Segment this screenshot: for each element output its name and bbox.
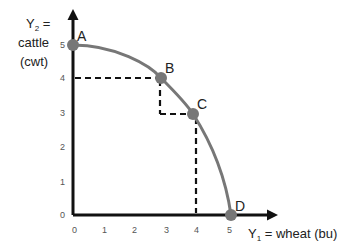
y-tick-0: 0 [60,210,65,220]
x-axis-arrow-icon [267,210,278,221]
x-axis-label: Y1 = wheat (bu) [248,226,337,243]
x-tick-5: 5 [227,225,232,235]
point-a-label: A [77,28,87,44]
y-axis-label-line1: Y2 = [26,16,50,33]
y-tick-2: 2 [60,142,65,152]
guide-lines [75,78,196,213]
y-axis-label-line2: cattle [18,35,49,50]
y-tick-3: 3 [60,108,65,118]
y-tick-5: 5 [60,40,65,50]
point-d-label: D [235,198,245,214]
y-axis-label-line3: (cwt) [20,54,48,69]
x-tick-2: 2 [132,225,137,235]
y-axis-arrow-icon [68,9,79,20]
ppf-diagram: A B C D 0 1 2 3 4 5 0 1 2 3 4 5 Y2 = cat… [0,0,346,248]
x-tick-0: 0 [72,225,77,235]
x-tick-4: 4 [194,225,199,235]
x-tick-1: 1 [102,225,107,235]
y-tick-1: 1 [60,177,65,187]
point-c-label: C [197,96,207,112]
y-tick-4: 4 [60,73,65,83]
point-b-label: B [165,60,174,76]
ppf-curve [73,45,231,215]
x-tick-3: 3 [164,225,169,235]
